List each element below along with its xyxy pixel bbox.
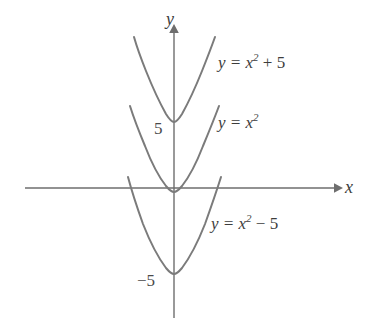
curve-label-x-squared: y = x2 bbox=[218, 112, 259, 131]
x-axis-label: x bbox=[345, 178, 353, 196]
curve-label-top-suffix: + 5 bbox=[259, 53, 286, 72]
y-tick-label-5: 5 bbox=[154, 120, 163, 137]
curve-label-bot-suffix: − 5 bbox=[252, 214, 279, 233]
y-tick-label-negative-5: −5 bbox=[137, 272, 155, 289]
curve-label-top-prefix: y = x bbox=[218, 53, 253, 72]
curve-label-bot-prefix: y = x bbox=[211, 214, 246, 233]
curve-label-x-squared-plus-5: y = x2 + 5 bbox=[218, 52, 285, 71]
graph-canvas bbox=[0, 0, 366, 327]
curve-label-x-squared-minus-5: y = x2 − 5 bbox=[211, 213, 278, 232]
curve-label-mid-prefix: y = x bbox=[218, 113, 253, 132]
x-axis-arrowhead bbox=[334, 183, 343, 193]
y-axis-label: y bbox=[166, 10, 174, 28]
parabola-translation-figure: y x 5 −5 y = x2 + 5 y = x2 y = x2 − 5 bbox=[0, 0, 366, 327]
curve-label-mid-exponent: 2 bbox=[253, 111, 259, 123]
